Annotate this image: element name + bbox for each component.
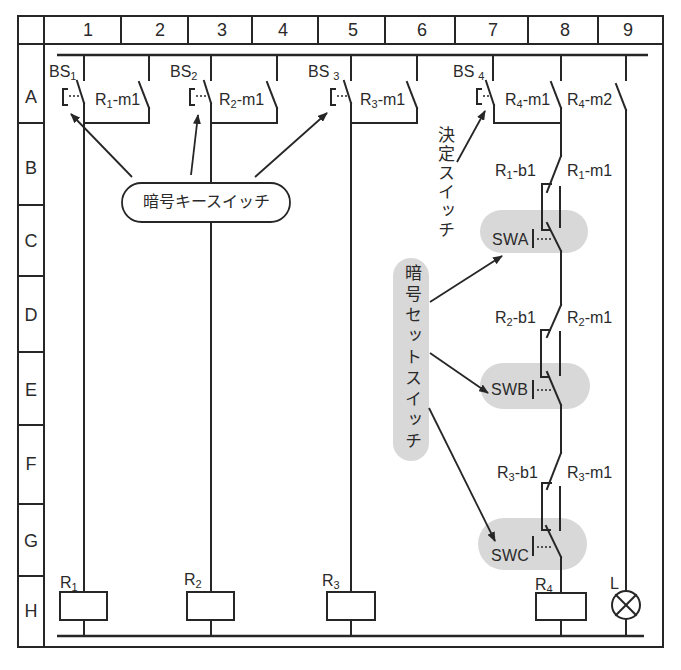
row-label-c: C bbox=[16, 232, 46, 250]
r4-m1-blade bbox=[551, 82, 561, 108]
rung-r2 bbox=[187, 55, 277, 636]
relay-r3-label: R3 bbox=[322, 573, 340, 589]
row-label-d: D bbox=[16, 306, 46, 324]
column-label-7: 7 bbox=[478, 21, 508, 39]
rung-lamp bbox=[612, 55, 640, 636]
r1-b1-label: R1-b1 bbox=[495, 163, 536, 179]
arrow-to-swc bbox=[429, 408, 495, 541]
r3-m1-blade bbox=[407, 82, 417, 108]
set-switch-callout-text: 暗号セットスイッチ bbox=[403, 264, 420, 453]
bs4-pushbutton-icon bbox=[477, 89, 481, 104]
bs1-blade bbox=[77, 81, 84, 103]
r2-m1-blade bbox=[267, 82, 277, 108]
chain-r2-m1-label: R2-m1 bbox=[567, 310, 612, 326]
arrow-to-bs2 bbox=[191, 115, 198, 175]
r2-m1-label: R2-m1 bbox=[219, 92, 264, 108]
arrow-to-swa bbox=[430, 256, 502, 302]
column-label-6: 6 bbox=[407, 21, 437, 39]
row-label-f: F bbox=[16, 455, 46, 473]
relay-circuit-diagram: 1 2 3 4 5 6 7 8 9 A B C D E F G H BS1 BS… bbox=[0, 0, 681, 670]
chain-r1-m1-label: R1-m1 bbox=[567, 163, 612, 179]
r4-m2-blade bbox=[616, 84, 626, 110]
row-label-g: G bbox=[16, 532, 46, 550]
column-label-8: 8 bbox=[550, 21, 580, 39]
bs2-pushbutton-icon bbox=[190, 89, 194, 105]
swc-label: SWC bbox=[491, 548, 529, 564]
row-label-a: A bbox=[16, 88, 46, 106]
swb-label: SWB bbox=[491, 382, 528, 398]
bs3-pushbutton-icon bbox=[331, 89, 335, 105]
r1-m1-label: R1-m1 bbox=[95, 92, 140, 108]
bs2-label: BS2 bbox=[170, 64, 197, 80]
bs2-blade bbox=[204, 81, 211, 103]
bs1-pushbutton-icon bbox=[63, 89, 67, 105]
r4-m1-label: R4-m1 bbox=[505, 92, 550, 108]
r4-m2-label: R4-m2 bbox=[567, 92, 612, 108]
row-label-b: B bbox=[16, 159, 46, 177]
lamp-label: L bbox=[610, 576, 619, 592]
column-label-9: 9 bbox=[613, 21, 643, 39]
column-label-4: 4 bbox=[268, 21, 298, 39]
bs3-label: BS3 bbox=[308, 64, 339, 80]
relay-r4-label: R4 bbox=[535, 577, 553, 593]
decision-switch-callout-text: 決定スイッチ bbox=[436, 126, 453, 240]
rung-r1 bbox=[60, 55, 149, 636]
lamp-icon bbox=[612, 591, 640, 619]
r3-m1-label: R3-m1 bbox=[360, 92, 405, 108]
swa-label: SWA bbox=[492, 232, 529, 248]
relay-r1-label: R1 bbox=[60, 575, 78, 591]
chain-r3-m1-label: R3-m1 bbox=[567, 465, 612, 481]
relay-coil-r2-icon bbox=[187, 592, 234, 620]
bs4-label: BS4 bbox=[453, 64, 484, 80]
row-dividers bbox=[18, 123, 44, 576]
bs1-label: BS1 bbox=[49, 64, 76, 80]
key-switch-callout-text: 暗号キースイッチ bbox=[122, 193, 290, 211]
bs3-blade bbox=[344, 81, 351, 103]
column-label-1: 1 bbox=[73, 21, 103, 39]
column-label-5: 5 bbox=[338, 21, 368, 39]
bs4-blade bbox=[486, 81, 494, 105]
row-label-e: E bbox=[16, 381, 46, 399]
relay-r2-label: R2 bbox=[184, 572, 202, 588]
r3-b1-label: R3-b1 bbox=[497, 465, 538, 481]
r2-b1-label: R2-b1 bbox=[495, 310, 536, 326]
column-label-3: 3 bbox=[207, 21, 237, 39]
row-label-h: H bbox=[16, 602, 46, 620]
arrow-to-swb bbox=[430, 353, 488, 393]
relay-coil-r1-icon bbox=[60, 592, 107, 620]
arrow-to-bs4 bbox=[457, 111, 485, 162]
relay-coil-r4-icon bbox=[536, 593, 586, 620]
column-label-2: 2 bbox=[145, 21, 175, 39]
r1-m1-blade bbox=[139, 82, 149, 108]
relay-coil-r3-icon bbox=[327, 592, 375, 620]
